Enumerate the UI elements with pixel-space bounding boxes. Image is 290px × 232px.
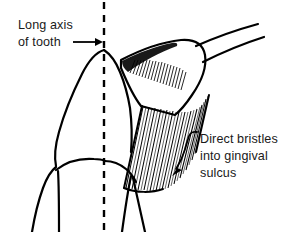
long-axis-label-line2: of tooth (18, 35, 61, 49)
direct-bristles-label-line3: sulcus (200, 166, 236, 180)
bristle-mass (126, 96, 208, 191)
gingival-margin-left (56, 159, 105, 170)
adjacent-tooth-edge-left (58, 171, 59, 232)
bristle-tips-edge (124, 188, 163, 192)
tooth-crown-left-contour (55, 50, 104, 166)
long-axis-label-line1: Long axis (18, 18, 73, 32)
long-axis-arrowhead-icon (95, 38, 103, 46)
direct-bristles-label-line1: Direct bristles (200, 132, 278, 146)
toothbrush-group (121, 24, 264, 192)
diagram-canvas: Long axis of tooth Direct bristles into … (0, 0, 290, 232)
interdental-papilla-left (32, 167, 56, 232)
direct-bristles-label-line2: into gingival (200, 149, 268, 163)
tooth-brushing-diagram: Long axis of tooth Direct bristles into … (0, 0, 290, 232)
long-axis-label-group: Long axis of tooth (18, 18, 103, 49)
toothbrush-handle-lower-edge (203, 37, 264, 62)
